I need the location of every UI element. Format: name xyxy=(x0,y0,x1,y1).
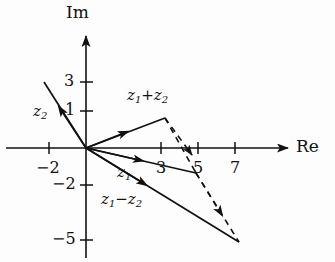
vector-label-z1-sub: 1 xyxy=(125,171,131,182)
tick-label-real-7: 7 xyxy=(230,160,240,176)
tick-label-real-5: 5 xyxy=(193,160,203,176)
vector-label-z2: z2 xyxy=(33,104,47,121)
vector-label-z1-minus-z2: z1−z2 xyxy=(101,192,142,209)
sum-label-first: z xyxy=(127,86,135,104)
vector-label-z1-base: z xyxy=(117,163,125,181)
dashed-line-z2-translated xyxy=(165,118,196,173)
vector-label-z1: z1 xyxy=(117,165,131,182)
diff-label-first: z xyxy=(101,190,109,208)
vector-z1-plus-z2-arrowhead xyxy=(86,133,124,148)
dashed-arrowhead-minus-z2 xyxy=(196,173,220,212)
vector-z1-arrowhead xyxy=(86,148,139,160)
vector-label-z2-sub: 2 xyxy=(41,110,47,121)
vector-label-z2-base: z xyxy=(33,102,41,120)
tick-label-real-3: 3 xyxy=(156,160,166,176)
sum-label-second-sub: 2 xyxy=(162,94,168,105)
tick-label-imag-minus5: −5 xyxy=(52,231,76,247)
tick-label-imag-minus2: −2 xyxy=(52,176,76,192)
sum-label-operator: + xyxy=(141,86,154,104)
dashed-arrowhead-z2-translated xyxy=(165,118,192,155)
tick-label-imag-1: 1 xyxy=(65,102,75,118)
complex-plane-figure: Im Re −2 3 5 7 3 1 −2 −5 z2 z1 z1+z2 z1−… xyxy=(0,0,335,262)
sum-label-second: z xyxy=(154,86,162,104)
diff-label-operator: − xyxy=(115,190,128,208)
vector-label-z1-plus-z2: z1+z2 xyxy=(127,88,168,105)
tick-label-imag-3: 3 xyxy=(64,73,74,89)
diff-label-second: z xyxy=(128,190,136,208)
real-axis-label: Re xyxy=(296,138,319,155)
vector-diagram-canvas xyxy=(0,0,335,262)
vector-z1-minus-z2-arrowhead xyxy=(86,148,143,183)
imaginary-axis-label: Im xyxy=(66,4,89,21)
diff-label-second-sub: 2 xyxy=(136,198,142,209)
